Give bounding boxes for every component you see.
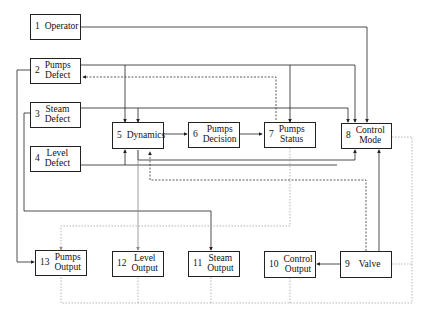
node-number: 7: [269, 130, 274, 140]
node-number: 2: [35, 66, 40, 76]
node-label-line1: Control: [284, 254, 313, 264]
node-level-defect: 4 LevelDefect: [30, 146, 81, 172]
node-number: 12: [117, 259, 127, 269]
node-steam-defect: 3 SteamDefect: [30, 102, 81, 128]
node-label-line2: Output: [207, 263, 233, 273]
node-control-output: 10 ControlOutput: [264, 251, 316, 278]
node-label-line1: Level: [47, 148, 69, 158]
node-label-line2: Mode: [359, 135, 381, 145]
node-operator: 1 Operator: [30, 14, 81, 40]
node-number: 3: [35, 110, 40, 120]
node-steam-output: 11 SteamOutput: [188, 251, 240, 277]
node-pumps-decision: 6 PumpsDecision: [188, 122, 240, 148]
node-number: 8: [346, 131, 351, 141]
node-label-line2: Output: [55, 262, 81, 272]
node-label-line2: Defect: [45, 158, 70, 168]
node-number: 10: [269, 260, 279, 270]
node-number: 11: [193, 259, 202, 269]
node-control-mode: 8 ControlMode: [341, 123, 392, 149]
node-label-line2: Output: [285, 264, 311, 274]
node-dynamics: 5 Dynamics: [112, 122, 164, 149]
node-label-line2: Defect: [45, 70, 70, 80]
node-level-output: 12 LevelOutput: [112, 251, 164, 277]
node-label-line1: Steam: [208, 253, 232, 263]
node-label: Dynamics: [127, 131, 166, 141]
node-label-line2: Status: [280, 134, 303, 144]
node-number: 6: [193, 130, 198, 140]
node-label-line2: Defect: [45, 114, 70, 124]
node-valve: 9 Valve: [340, 251, 392, 278]
node-label: Operator: [45, 22, 79, 32]
node-number: 1: [35, 22, 40, 32]
node-label-line1: Pumps: [207, 124, 233, 134]
node-label-line1: Control: [356, 125, 385, 135]
node-number: 5: [117, 131, 122, 141]
node-pumps-status: 7 PumpsStatus: [264, 122, 316, 148]
node-number: 13: [40, 258, 50, 268]
node-label-line1: Level: [134, 253, 156, 263]
node-label-line1: Pumps: [279, 124, 305, 134]
node-label: Valve: [359, 260, 381, 270]
node-pumps-defect: 2 PumpsDefect: [30, 58, 81, 84]
node-number: 4: [35, 154, 40, 164]
node-label-line2: Decision: [203, 134, 237, 144]
node-label-line2: Output: [132, 263, 158, 273]
node-label-line1: Pumps: [55, 252, 81, 262]
node-pumps-output: 13 PumpsOutput: [35, 250, 87, 276]
node-label-line1: Pumps: [45, 60, 71, 70]
node-label-line1: Steam: [46, 104, 70, 114]
node-number: 9: [345, 260, 350, 270]
